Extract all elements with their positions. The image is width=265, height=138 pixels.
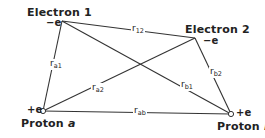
label-rab: rab [133,106,147,117]
proton-a-name: Proton [21,117,64,130]
proton-a-charge: +e [27,105,42,115]
label-rb1: rb1 [180,80,194,91]
proton-a-label: Proton a [21,118,76,129]
proton-b-name: Proton [217,120,260,133]
label-ra1: ra1 [49,59,63,70]
label-ra2: ra2 [91,83,105,94]
h2-distance-diagram: Electron 1 −e Electron 2 −e +e Proton a … [0,0,265,138]
label-r12: r12 [131,24,145,35]
electron-2-label: Electron 2 [185,24,250,35]
label-rb2: rb2 [209,67,223,78]
edge-r12 [62,21,195,38]
proton-b-suffix: b [264,120,265,133]
electron-1-charge: −e [46,18,61,28]
proton-b-marker [228,111,233,116]
electron-2-charge: −e [203,36,218,46]
proton-b-label: Proton b [217,121,265,132]
proton-b-charge: +e [236,108,251,118]
edge-ra2 [43,38,195,111]
proton-a-suffix: a [68,117,76,130]
